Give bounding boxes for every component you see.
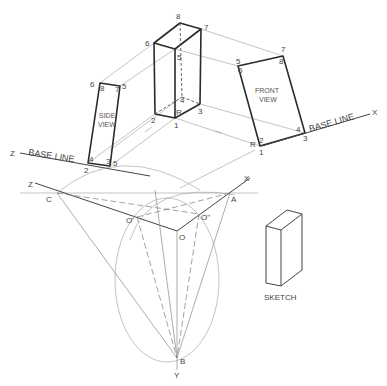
front-view-title-2: VIEW [259, 96, 277, 103]
box-label-r: R [176, 108, 182, 117]
point-o1-label: O' [126, 216, 134, 225]
front-view: FRONT VIEW 5 6 7 8 4 3 R 2 1 [236, 45, 308, 157]
box-label-7: 7 [204, 23, 209, 32]
side-label: 5 [122, 82, 127, 91]
sketch: SKETCH [264, 210, 302, 302]
front-label: 6 [238, 66, 243, 75]
box-label-2: 2 [151, 116, 156, 125]
base-line-left-label: BASE LINE [28, 147, 76, 164]
side-view-title-2: VIEW [98, 121, 116, 128]
point-b-label: B [180, 357, 185, 366]
base-line-right-label: BASE LINE [308, 111, 355, 133]
box-label-4: 4 [180, 96, 185, 105]
front-label: 1 [259, 148, 264, 157]
orthographic-to-isometric-diagram: 8 7 6 5 4 3 2 1 R SIDE VIEW 6 8 7 5 4 2 … [0, 0, 387, 386]
z-axis-label: Z [28, 180, 33, 189]
front-view-title-1: FRONT [255, 87, 280, 94]
front-label: 3 [303, 134, 308, 143]
front-label: R [250, 140, 256, 149]
point-a-label: A [231, 195, 237, 204]
z-base-axis: Z [10, 149, 15, 158]
isometric-box: 8 7 6 5 4 3 2 1 R [145, 12, 209, 130]
point-c-label: C [46, 195, 52, 204]
box-label-6: 6 [145, 39, 150, 48]
x-base-axis: X [372, 108, 378, 117]
front-label: 8 [279, 57, 284, 66]
side-label: 6 [90, 80, 95, 89]
side-view-title-1: SIDE [99, 112, 116, 119]
construction-geometry: Z X Y C A B O O' O" [20, 166, 258, 380]
base-lines: Z BASE LINE BASE LINE X [10, 108, 378, 188]
front-label: 7 [281, 45, 286, 54]
side-label: 3 [106, 157, 111, 166]
box-label-8: 8 [176, 12, 181, 21]
side-label: 8 [100, 84, 105, 93]
point-o2-label: O" [201, 213, 210, 222]
side-view: SIDE VIEW 6 8 7 5 4 2 3 5 [84, 80, 127, 175]
point-o-label: O [179, 233, 185, 242]
x-axis-label: X [244, 174, 250, 183]
y-axis-label: Y [174, 371, 180, 380]
front-label: 5 [236, 57, 241, 66]
box-label-5: 5 [177, 53, 182, 62]
sketch-caption: SKETCH [264, 293, 297, 302]
side-label: 7 [115, 85, 120, 94]
side-label: 4 [89, 155, 94, 164]
box-label-1: 1 [174, 121, 179, 130]
front-label: 2 [259, 136, 264, 145]
box-label-3: 3 [198, 107, 203, 116]
front-label: 4 [296, 125, 301, 134]
